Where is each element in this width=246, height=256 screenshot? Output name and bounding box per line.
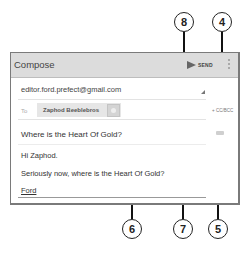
from-account-field[interactable]: editor.ford.prefect@gmail.com xyxy=(21,85,121,94)
compose-window: Compose SEND editor.ford.prefect@gmail.c… xyxy=(10,52,240,205)
recipient-chip[interactable]: Zaphod Beeblebros xyxy=(37,103,121,117)
recipient-name: Zaphod Beeblebros xyxy=(37,107,107,113)
callout-4: 4 xyxy=(212,12,232,32)
send-button[interactable]: SEND xyxy=(187,61,213,69)
divider xyxy=(18,119,206,120)
body-underline xyxy=(18,197,206,198)
send-label: SEND xyxy=(198,62,213,68)
callout-8: 8 xyxy=(174,12,194,32)
cc-bcc-button[interactable]: + CC/BCC xyxy=(212,108,233,113)
page-title: Compose xyxy=(14,59,55,70)
account-dropdown-icon[interactable] xyxy=(201,90,205,94)
callout-6: 6 xyxy=(122,219,142,239)
app-bar: Compose SEND xyxy=(11,53,238,78)
divider xyxy=(18,144,206,145)
body-line-signature[interactable]: Ford xyxy=(21,186,36,195)
attach-icon[interactable] xyxy=(216,131,224,135)
overflow-menu-icon[interactable] xyxy=(228,59,230,69)
body-line-message[interactable]: Seriously now, where is the Heart Of Gol… xyxy=(21,169,164,178)
subject-field[interactable]: Where is the Heart Of Gold? xyxy=(21,130,122,139)
to-label: To xyxy=(21,108,27,114)
send-arrow-icon xyxy=(187,61,196,69)
callout-5: 5 xyxy=(208,219,228,239)
body-line-greeting[interactable]: Hi Zaphod. xyxy=(21,151,58,160)
contact-avatar-icon xyxy=(107,104,120,117)
callout-7: 7 xyxy=(173,219,193,239)
divider xyxy=(18,99,206,100)
